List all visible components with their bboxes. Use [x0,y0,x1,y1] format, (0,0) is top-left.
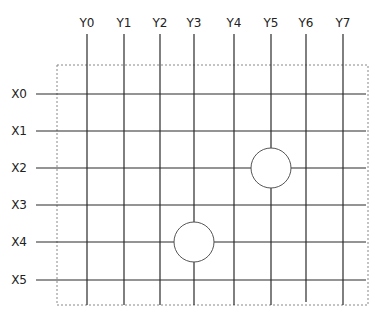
dashed-boundary [57,65,368,305]
row-label-x3: X3 [11,198,27,212]
column-labels: Y0Y1Y2Y3Y4Y5Y6Y7 [79,16,351,30]
column-label-y3: Y3 [186,16,202,30]
column-label-y5: Y5 [263,16,279,30]
row-label-x2: X2 [11,161,27,175]
column-label-y1: Y1 [116,16,132,30]
row-label-x1: X1 [11,124,27,138]
column-label-y2: Y2 [152,16,168,30]
column-label-y0: Y0 [79,16,95,30]
column-label-y4: Y4 [226,16,242,30]
column-label-y6: Y6 [298,16,314,30]
crosspoint-node-x4-y3 [174,222,214,262]
row-label-x0: X0 [11,87,27,101]
row-label-x4: X4 [11,235,27,249]
crosspoint-node-x2-y5 [251,148,291,188]
row-label-x5: X5 [11,273,27,287]
column-lines [87,34,343,305]
column-label-y7: Y7 [335,16,351,30]
crossbar-diagram: Y0Y1Y2Y3Y4Y5Y6Y7 X0X1X2X3X4X5 [0,0,385,321]
row-labels: X0X1X2X3X4X5 [11,87,27,287]
